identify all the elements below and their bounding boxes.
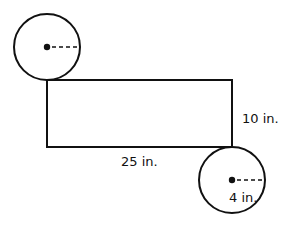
lateral-surface-rectangle	[47, 80, 232, 147]
top-center-dot	[44, 44, 50, 50]
top-base-circle	[14, 14, 80, 80]
height-label: 10 in.	[242, 111, 279, 126]
bottom-center-dot	[229, 177, 235, 183]
length-label: 25 in.	[121, 154, 158, 169]
cylinder-net-diagram: 10 in. 25 in. 4 in.	[0, 0, 287, 229]
radius-label: 4 in.	[229, 190, 257, 205]
